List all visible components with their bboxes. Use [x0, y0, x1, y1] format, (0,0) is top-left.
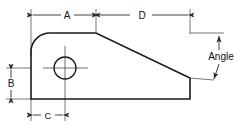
- dimension-a: A: [33, 10, 94, 21]
- dimension-d: D: [98, 10, 188, 21]
- dimension-b: B: [8, 70, 15, 97]
- technical-drawing-canvas: A D B C Angle: [0, 0, 244, 131]
- part-outline: [31, 33, 190, 99]
- dim-label-a: A: [64, 10, 71, 21]
- hole-centre-lines: [43, 46, 88, 99]
- dimension-angle: Angle: [189, 36, 234, 80]
- dim-label-d: D: [138, 10, 145, 21]
- dim-label-c: C: [45, 110, 52, 121]
- dimension-c: C: [33, 110, 63, 121]
- dim-line-angle-lower: [214, 64, 219, 79]
- bracket-profile-drawing: A D B C Angle: [0, 0, 244, 131]
- extension-lines: [6, 9, 224, 121]
- dim-label-angle: Angle: [208, 51, 234, 62]
- leader-line-angle: [189, 78, 214, 80]
- dim-label-b: B: [8, 78, 15, 89]
